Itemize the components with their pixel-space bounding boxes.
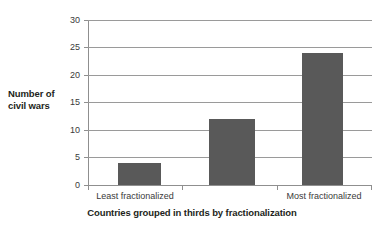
x-category-label-3: Most fractionalized <box>277 191 371 202</box>
bar-most-fractionalized <box>302 53 343 185</box>
y-tick-label-20: 20 <box>58 71 80 80</box>
x-divider-1 <box>182 185 183 190</box>
bar-least-fractionalized <box>118 163 161 185</box>
gridline-30 <box>88 20 372 21</box>
bar-chart: Number of civil wars 30 25 20 15 10 5 0 … <box>0 0 384 233</box>
gridline-0 <box>88 185 372 186</box>
y-tick-label-15: 15 <box>58 98 80 107</box>
y-tick-label-10: 10 <box>58 126 80 135</box>
x-category-label-1: Least fractionalized <box>88 191 182 202</box>
gridline-25 <box>88 47 372 48</box>
x-divider-3 <box>371 185 372 190</box>
y-tick-label-30: 30 <box>58 16 80 25</box>
y-tick-label-0: 0 <box>58 181 80 190</box>
x-divider-0 <box>88 185 89 190</box>
plot-area <box>88 20 372 185</box>
bar-middle-fractionalized <box>209 119 255 185</box>
y-tick-label-5: 5 <box>58 153 80 162</box>
y-tick-label-25: 25 <box>58 43 80 52</box>
x-axis-title: Countries grouped in thirds by fractiona… <box>0 207 384 218</box>
x-divider-2 <box>277 185 278 190</box>
